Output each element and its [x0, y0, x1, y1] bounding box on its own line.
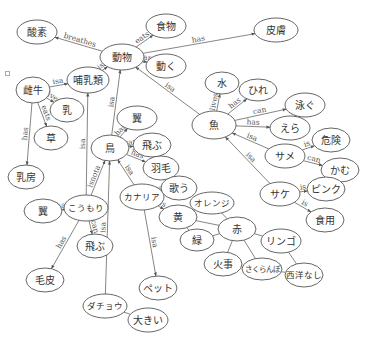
node-ookii: 大きい: [128, 308, 168, 332]
edge-aka-sakuranbo: [244, 240, 256, 258]
edge-koumori-kegawa: has: [51, 220, 79, 268]
node-kanaria: カナリア: [120, 184, 164, 210]
node-label: 水: [217, 78, 227, 89]
node-label: 乳房: [16, 171, 36, 183]
node-label: 雌牛: [23, 84, 43, 96]
edge-label: has: [54, 234, 68, 250]
node-label: 飛ぶ: [85, 241, 105, 252]
node-label: 飛ぶ: [142, 140, 162, 151]
node-seiyounashi: 西洋なし: [285, 263, 323, 287]
edge-line: [124, 312, 131, 314]
edge-dachou-tori: isa: [98, 161, 109, 294]
node-label: さくらんぼ: [245, 265, 281, 274]
node-chichi: 乳: [50, 98, 84, 122]
edge-label: is: [300, 198, 310, 209]
node-label: こうもり: [68, 203, 104, 213]
node-label: 乳: [62, 104, 72, 116]
node-label: 哺乳類: [73, 74, 103, 86]
node-label: えら: [280, 123, 300, 134]
node-label: 魚: [209, 119, 219, 131]
node-sakana: 魚: [192, 111, 236, 139]
node-label: 動物: [112, 51, 132, 63]
node-doubutsu: 動物: [100, 44, 144, 70]
node-label: 酸素: [27, 26, 47, 38]
node-sake: サケ: [260, 182, 300, 206]
node-koumori: こうもり: [64, 195, 108, 221]
edge-aka-kaji: [228, 241, 233, 253]
node-tori: 鳥: [91, 135, 129, 161]
node-dachou: ダチョウ: [83, 294, 127, 318]
node-label: 草: [46, 133, 56, 144]
node-label: 毛皮: [35, 274, 55, 286]
edge-orenji-aka: [222, 213, 228, 219]
edge-mesuushi-nyuubou: has: [20, 103, 32, 165]
node-label: 動く: [156, 60, 176, 72]
node-label: ひれ: [248, 85, 268, 96]
node-label: 大きい: [133, 314, 163, 326]
node-tsubasa1: 翼: [117, 106, 157, 130]
edge-koumori-tori: isnota: [85, 161, 105, 196]
edge-dachou-ookii: [124, 312, 131, 314]
node-shokuyou: 食用: [306, 208, 344, 232]
nodes-layer: 酸素食物動物動く皮膚雌牛哺乳類乳草乳房水ひれ魚泳ぐえらサメ危険かむ翼鳥飛ぶ羽毛カ…: [8, 14, 359, 332]
edge-label: isa: [78, 138, 87, 149]
node-label: ピンク: [311, 184, 341, 195]
edge-sakana-hire: has: [227, 95, 247, 114]
edge-line: [244, 240, 256, 258]
edge-label: has: [227, 95, 243, 110]
edge-line: [289, 252, 297, 264]
node-hire: ひれ: [239, 79, 277, 101]
edge-label: isa: [98, 221, 107, 233]
semantic-network-diagram: breatheseatscanhasisaisagiveseatshasisai…: [0, 0, 384, 343]
edge-line: [281, 272, 285, 273]
node-label: 西洋なし: [286, 270, 322, 280]
node-label: 翼: [132, 113, 142, 124]
node-ugoku: 動く: [146, 54, 186, 78]
edge-label: breathes: [63, 31, 98, 49]
node-label: サメ: [275, 151, 295, 162]
edge-sakana-mizu: lives: [208, 92, 220, 111]
edge-kanaria-tori: isa: [118, 160, 137, 185]
node-label: 翼: [38, 206, 48, 217]
edge-line: [196, 221, 219, 226]
edge-sake-pinku: is: [299, 182, 307, 192]
node-ringo: リンゴ: [261, 229, 301, 253]
node-petto: ペット: [139, 276, 177, 300]
node-label: 皮膚: [266, 24, 286, 36]
node-utau: 歌う: [161, 176, 197, 200]
node-label: かむ: [330, 165, 350, 176]
node-label: 赤: [232, 224, 242, 235]
node-label: 火事: [213, 258, 233, 270]
node-same: サメ: [265, 144, 305, 168]
node-label: カナリア: [124, 192, 160, 202]
node-label: 羽毛: [151, 163, 171, 174]
node-label: ダチョウ: [87, 301, 123, 311]
edge-midori-aka: [213, 234, 220, 236]
node-midori: 緑: [180, 229, 214, 251]
edge-sakuranbo-seiyounashi: [281, 272, 285, 273]
node-label: 鳥: [105, 142, 115, 154]
node-kegawa: 毛皮: [26, 268, 64, 292]
node-tsubasa2: 翼: [24, 199, 62, 223]
edge-label: isa: [244, 150, 258, 164]
node-aka: 赤: [218, 217, 256, 241]
edge-label: has: [20, 127, 30, 141]
node-label: 危険: [321, 135, 341, 146]
node-honyurui: 哺乳類: [67, 67, 109, 93]
edge-label: isnota: [85, 163, 102, 188]
edge-aka-ringo: [254, 234, 262, 236]
node-ki: 黄: [159, 205, 197, 229]
edge-label: isa: [123, 163, 137, 177]
edge-label: isa: [163, 80, 177, 94]
node-hifu: 皮膚: [254, 18, 298, 42]
edge-label: has: [246, 117, 260, 127]
node-label: ペット: [143, 283, 173, 294]
edge-label: can: [252, 105, 267, 117]
node-mizu: 水: [205, 72, 239, 94]
node-kiken: 危険: [312, 128, 350, 152]
node-label: サケ: [270, 189, 290, 200]
node-kusa: 草: [34, 126, 68, 150]
node-orenji: オレンジ: [190, 192, 234, 214]
edge-line: [228, 241, 233, 253]
edge-sake-sakana: isa: [225, 137, 270, 184]
